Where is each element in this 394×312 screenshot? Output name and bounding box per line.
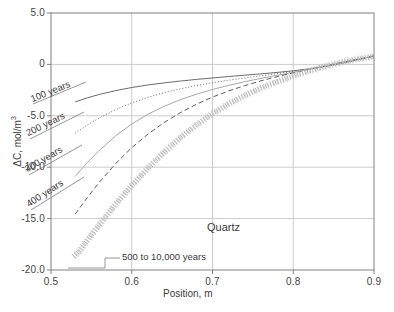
bundle-annotation-label: 500 to 10,000 years bbox=[122, 251, 206, 262]
y-tick-label: 5.0 bbox=[0, 7, 45, 18]
x-tick-label: 0.8 bbox=[273, 276, 313, 287]
y-tick-label: 0 bbox=[0, 58, 45, 69]
x-tick-label: 0.6 bbox=[112, 276, 152, 287]
y-tick-label: -15.0 bbox=[0, 213, 45, 224]
x-tick-label: 0.7 bbox=[193, 276, 233, 287]
x-axis-title: Position, m bbox=[163, 288, 212, 299]
material-annotation-label: Quartz bbox=[207, 221, 240, 233]
y-tick-label: -5.0 bbox=[0, 110, 45, 121]
y-tick-label: -20.0 bbox=[0, 264, 45, 275]
y-axis-title-text: ΔC, mol/m bbox=[12, 120, 23, 167]
chart-figure: 5.00-5.0-10.0-15.0-20.0 0.50.60.70.80.9 … bbox=[0, 0, 394, 312]
tick-marks bbox=[47, 13, 374, 274]
x-tick-label: 0.5 bbox=[31, 276, 71, 287]
x-tick-label: 0.9 bbox=[354, 276, 394, 287]
y-axis-title: ΔC, mol/m3 bbox=[12, 92, 23, 192]
y-axis-title-exponent: 3 bbox=[10, 116, 17, 120]
